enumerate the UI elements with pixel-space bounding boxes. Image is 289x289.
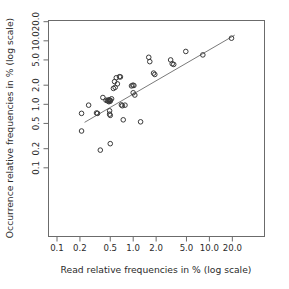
y-tick-label: 0.5 bbox=[31, 117, 41, 131]
x-tick-label: 0.1 bbox=[50, 243, 64, 253]
y-tick-label: 20.0 bbox=[31, 12, 41, 31]
y-tick-label: 10.0 bbox=[31, 31, 41, 50]
y-tick-label: 0.1 bbox=[31, 161, 41, 175]
x-tick-label: 10.0 bbox=[200, 243, 219, 253]
figure-background bbox=[0, 0, 289, 289]
y-tick-label: 2.0 bbox=[31, 78, 41, 92]
x-tick-label: 0.5 bbox=[103, 243, 117, 253]
y-tick-label: 0.2 bbox=[31, 142, 41, 156]
x-tick-label: 20.0 bbox=[223, 243, 242, 253]
x-tick-label: 0.2 bbox=[73, 243, 87, 253]
x-tick-label: 5.0 bbox=[180, 243, 194, 253]
x-axis-label: Read relative frequencies in % (log scal… bbox=[61, 264, 252, 275]
y-tick-label: 5.0 bbox=[31, 53, 41, 67]
plot-canvas: 0.10.20.51.02.05.010.020.0 0.10.20.51.02… bbox=[0, 0, 289, 289]
y-tick-label: 1.0 bbox=[31, 97, 41, 111]
x-tick-label: 2.0 bbox=[149, 243, 163, 253]
x-tick-label: 1.0 bbox=[126, 243, 140, 253]
scatter-plot-figure: 0.10.20.51.02.05.010.020.0 0.10.20.51.02… bbox=[0, 0, 289, 289]
y-axis-label: Occurrence relative frequencies in % (lo… bbox=[4, 18, 15, 238]
